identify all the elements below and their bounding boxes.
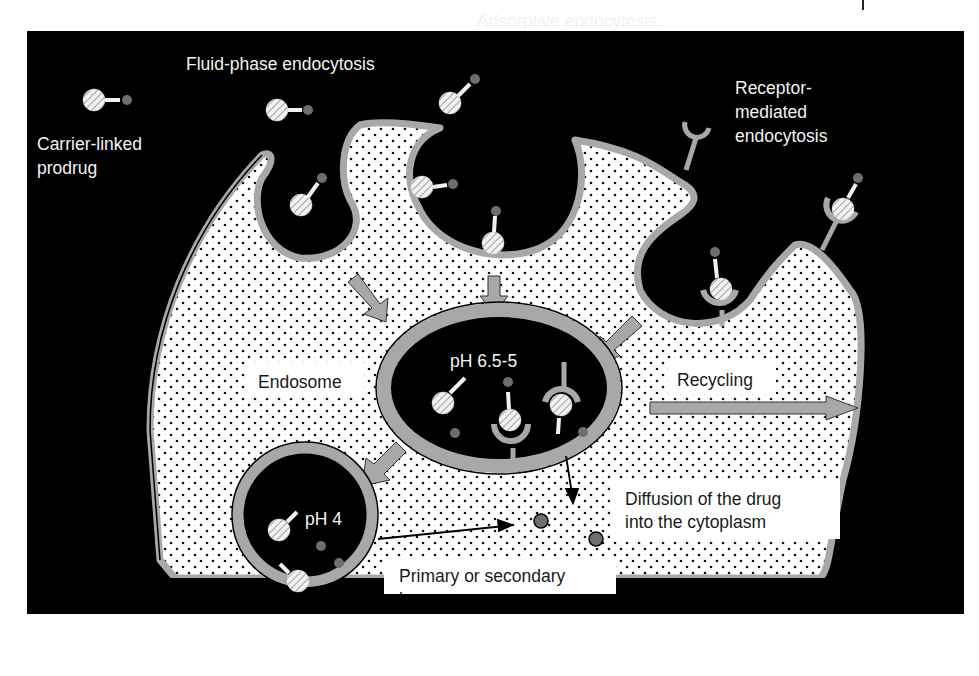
endocytosis-diagram: Carrier-linked prodrug Fluid-phase endoc… xyxy=(0,0,979,676)
lysosome-ph-label: pH 4 xyxy=(305,509,342,529)
endosome: pH 6.5-5 xyxy=(376,302,622,474)
recycling-label: Recycling xyxy=(677,370,753,390)
fluid-phase-label: Fluid-phase endocytosis xyxy=(186,54,375,74)
adsorptive-label: Adsorptive endocytosis xyxy=(477,11,657,31)
endosome-ph-label: pH 6.5-5 xyxy=(450,351,517,371)
endosome-label: Endosome xyxy=(258,372,342,392)
